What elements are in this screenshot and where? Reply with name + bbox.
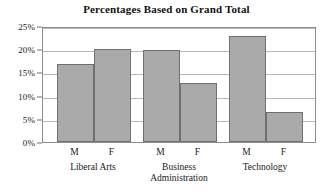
y-axis: 0%5%10%15%20%25% [0,27,42,143]
y-tick-label: 25% [18,22,35,32]
x-tick-label-sex: F [109,147,114,157]
x-tick-label-sex: F [195,147,200,157]
bar [143,50,180,142]
y-tick-label: 10% [18,92,35,102]
y-tick-label: 20% [18,45,35,55]
chart-title: Percentages Based on Grand Total [0,3,333,15]
x-group-label: Technology [243,162,288,173]
bars-layer [43,28,315,142]
plot-area [42,27,316,143]
y-tick-label: 15% [18,68,35,78]
x-group-label: Liberal Arts [70,162,116,173]
x-tick-label-sex: F [281,147,286,157]
x-tick-label-sex: M [70,147,78,157]
x-axis: MFMFMFLiberal ArtsBusinessAdministration… [42,144,316,192]
bar [94,49,131,142]
bar [229,36,266,142]
y-tick-label: 5% [23,115,35,125]
x-tick-label-sex: M [156,147,164,157]
x-group-label: BusinessAdministration [150,162,208,184]
bar [180,83,217,142]
bar [266,112,303,142]
bar-chart-figure: Percentages Based on Grand Total 0%5%10%… [0,0,333,192]
bar [57,64,94,142]
y-tick-label: 0% [23,138,35,148]
x-tick-label-sex: M [242,147,250,157]
